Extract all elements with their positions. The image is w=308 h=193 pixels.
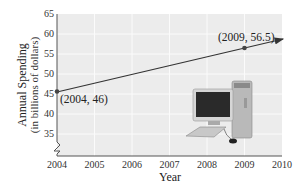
annotation-2004: (2004, 46) — [60, 93, 108, 106]
svg-text:2008: 2008 — [197, 159, 217, 170]
data-point-2009 — [242, 46, 247, 51]
svg-text:45: 45 — [44, 88, 54, 99]
line-chart: 65 60 55 50 45 40 35 2004 2005 2006 2007… — [0, 0, 308, 193]
x-axis-label: Year — [159, 170, 181, 184]
annotation-2009: (2009, 56.5) — [218, 31, 275, 44]
y-tick-labels: 65 60 55 50 45 40 35 — [44, 8, 54, 139]
svg-text:50: 50 — [44, 68, 54, 79]
svg-text:2005: 2005 — [85, 159, 105, 170]
svg-text:2009: 2009 — [235, 159, 255, 170]
svg-text:2007: 2007 — [160, 159, 180, 170]
svg-text:2006: 2006 — [122, 159, 142, 170]
svg-text:65: 65 — [44, 8, 54, 19]
svg-text:55: 55 — [44, 48, 54, 59]
x-tick-labels: 2004 2005 2006 2007 2008 2009 2010 — [47, 159, 292, 170]
svg-text:2004: 2004 — [47, 159, 67, 170]
data-point-2004 — [55, 89, 60, 94]
y-axis-sublabel: (in billions of dollars) — [28, 37, 41, 134]
svg-text:60: 60 — [44, 28, 54, 39]
svg-text:35: 35 — [44, 128, 54, 139]
y-axis-label: Annual Spending — [15, 43, 29, 127]
svg-text:2010: 2010 — [272, 159, 292, 170]
svg-text:40: 40 — [44, 108, 54, 119]
